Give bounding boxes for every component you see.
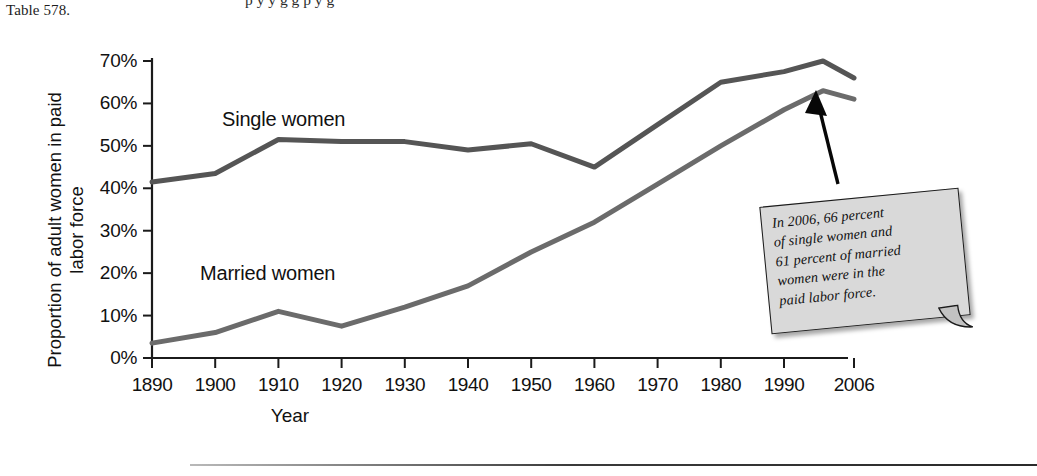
x-tick-label: 1960 <box>562 374 626 396</box>
x-tick-label: 2006 <box>822 374 886 396</box>
series-label-single-women: Single women <box>222 108 345 131</box>
y-tick-label: 70% <box>75 50 137 72</box>
figure-page: p y y g g p y g Table 578. 0%10%20%30%40… <box>0 0 1037 476</box>
x-tick-label: 1920 <box>310 374 374 396</box>
x-axis-ticks <box>152 358 854 368</box>
x-axis-title-text: Year <box>271 405 309 427</box>
x-tick-label: 1930 <box>373 374 437 396</box>
bottom-divider <box>190 464 1037 466</box>
x-tick-label: 1980 <box>689 374 753 396</box>
x-tick-label: 1890 <box>120 374 184 396</box>
callout-note-text: In 2006, 66 percentof single women and61… <box>771 197 959 311</box>
line-chart: 0%10%20%30%40%50%60%70% 1890190019101920… <box>0 0 1037 430</box>
series-label-married-women: Married women <box>200 262 335 285</box>
x-tick-label: 1970 <box>626 374 690 396</box>
x-tick-label: 1940 <box>436 374 500 396</box>
y-axis-ticks <box>143 61 152 358</box>
x-tick-label: 1950 <box>499 374 563 396</box>
y-axis-title: Proportion of adult women in paid labor … <box>44 80 88 380</box>
x-axis-title: Year <box>0 405 1010 427</box>
callout-note: In 2006, 66 percentof single women and61… <box>759 188 970 335</box>
x-tick-label: 1990 <box>752 374 816 396</box>
x-tick-label: 1910 <box>246 374 310 396</box>
callout-curl-corner <box>938 303 974 332</box>
x-tick-label: 1900 <box>183 374 247 396</box>
